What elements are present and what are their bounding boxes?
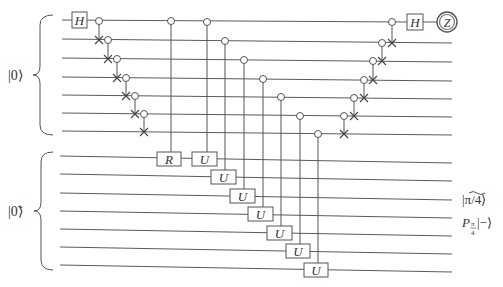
control-dot-icon [379,40,386,47]
wire-1 [62,20,407,22]
output-operator-label: P π 4 |−⟩ [461,215,492,237]
svg-text:H: H [409,15,420,30]
gate-u-1: U [192,152,217,167]
gate-u-2: U [211,170,236,185]
gate-h-left: H [72,12,87,28]
control-dot-icon [204,19,211,26]
svg-text:π: π [471,220,475,228]
control-dot-icon [260,76,267,83]
svg-text:U: U [256,207,267,222]
quantum-circuit-diagram: |0⟩ |0̃⟩ [0,0,503,287]
control-dot-icon [370,58,377,65]
svg-text:U: U [200,152,211,167]
wire-12 [60,229,452,236]
control-dot-icon [241,57,248,64]
wire-5 [62,95,452,99]
gate-u-3: U [230,189,255,204]
upper-input-label: |0⟩ [8,68,23,83]
wire-4 [62,77,452,81]
left-cnot-cascade [95,18,148,137]
lower-register-brace [34,152,53,270]
control-dot-icon [389,19,396,26]
svg-text:U: U [275,226,286,241]
wire-6 [62,113,452,117]
svg-text:H: H [74,13,85,28]
svg-text:Z: Z [444,16,451,30]
wire-8 [60,156,452,163]
control-dot-icon [123,75,130,82]
control-dot-icon [114,56,121,63]
gate-h-right: H [407,14,423,30]
svg-text:P: P [461,215,470,230]
svg-text:|−⟩: |−⟩ [477,215,492,230]
gate-u-7: U [304,263,328,278]
control-dot-icon [278,94,285,101]
control-dot-icon [315,131,322,138]
output-state-label: |π/4⟩ [462,192,486,208]
control-dot-icon [168,18,175,25]
upper-register-brace [33,15,53,135]
wire-13 [60,247,452,254]
wire-14 [60,265,452,272]
svg-text:U: U [219,170,230,185]
wire-7 [62,131,452,135]
wire-10 [60,193,452,200]
gate-r: R [157,152,181,167]
control-dot-icon [341,113,348,120]
upper-register-wires [62,20,452,135]
control-dot-icon [141,111,148,118]
control-dot-icon [222,38,229,45]
control-dot-icon [361,77,368,84]
gate-u-6: U [286,244,310,259]
gate-u-5: U [267,226,292,241]
control-dot-icon [96,18,103,25]
z-measurement-icon: Z [437,12,457,32]
svg-text:U: U [311,263,322,278]
svg-text:U: U [238,189,249,204]
control-dot-icon [105,37,112,44]
svg-text:R: R [164,152,173,167]
control-dot-icon [132,93,139,100]
control-dot-icon [351,95,358,102]
wire-9 [60,174,452,181]
gate-u-4: U [248,207,273,222]
control-dot-icon [297,113,304,120]
svg-text:4: 4 [471,229,475,237]
right-cnot-cascade [340,19,396,139]
svg-text:U: U [293,244,304,259]
lower-input-label: |0̃⟩ [8,204,23,219]
